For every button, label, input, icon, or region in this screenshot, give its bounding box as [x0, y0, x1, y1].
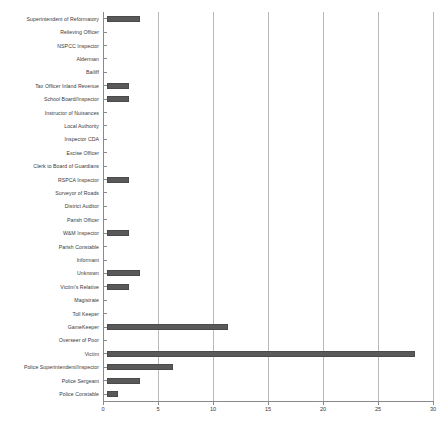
category-label: Superintendent of Reformatory: [0, 16, 103, 22]
bar[interactable]: [107, 391, 118, 397]
x-axis-tick: [103, 401, 104, 405]
bar-cell: [107, 52, 443, 65]
category-label: Informant: [0, 257, 103, 263]
bar-cell: [107, 240, 443, 253]
category-label: Tax Officer Inland Revenue: [0, 83, 103, 89]
category-label: Alderman: [0, 56, 103, 62]
bar[interactable]: [107, 324, 228, 330]
chart-row: Alderman: [0, 52, 443, 65]
bar-cell: [107, 213, 443, 226]
x-axis-tick-label: 30: [430, 406, 436, 413]
category-label: Unknown: [0, 270, 103, 276]
chart-row: Police Sergeant: [0, 374, 443, 387]
x-axis-tick: [378, 401, 379, 405]
category-label: Overseer of Poor: [0, 337, 103, 343]
category-label: Police Sergeant: [0, 378, 103, 384]
bar-cell: [107, 66, 443, 79]
category-label: Victim: [0, 351, 103, 357]
category-label: RSPCA Inspector: [0, 177, 103, 183]
chart-row: W&M Inspector: [0, 227, 443, 240]
bar[interactable]: [107, 270, 140, 276]
bar-cell: [107, 200, 443, 213]
x-axis-tick: [433, 401, 434, 405]
chart-row: Clerk to Board of Guardians: [0, 159, 443, 172]
bar-cell: [107, 307, 443, 320]
bar-cell: [107, 25, 443, 38]
bar[interactable]: [107, 230, 129, 236]
bar-chart: Superintendent of ReformatoryRelieving O…: [0, 0, 443, 431]
bar[interactable]: [107, 284, 129, 290]
chart-row: Instructor of Nuisances: [0, 106, 443, 119]
bar-cell: [107, 280, 443, 293]
chart-row: GameKeeper: [0, 320, 443, 333]
category-label: Inspector CDA: [0, 136, 103, 142]
x-axis-tick-label: 25: [375, 406, 381, 413]
category-label: Toll Keeper: [0, 311, 103, 317]
bar-cell: [107, 227, 443, 240]
chart-row: Surveyor of Roads: [0, 186, 443, 199]
bar-cell: [107, 79, 443, 92]
bar-cell: [107, 133, 443, 146]
bar-cell: [107, 253, 443, 266]
x-axis-tick-label: 0: [101, 406, 104, 413]
chart-row: Overseer of Poor: [0, 334, 443, 347]
category-label: W&M Inspector: [0, 230, 103, 236]
category-label: Surveyor of Roads: [0, 190, 103, 196]
x-axis-tick-label: 5: [156, 406, 159, 413]
category-label: Parish Officer: [0, 217, 103, 223]
bar[interactable]: [107, 378, 140, 384]
bar-cell: [107, 119, 443, 132]
bar-cell: [107, 12, 443, 25]
chart-row: District Auditor: [0, 200, 443, 213]
x-axis-tick-label: 10: [210, 406, 216, 413]
x-axis-tick: [268, 401, 269, 405]
bar-cell: [107, 320, 443, 333]
chart-row: Tax Officer Inland Revenue: [0, 79, 443, 92]
category-label: NSPCC Inspector: [0, 43, 103, 49]
category-label: Local Authority: [0, 123, 103, 129]
bar-cell: [107, 106, 443, 119]
chart-row: NSPCC Inspector: [0, 39, 443, 52]
bar[interactable]: [107, 83, 129, 89]
bar-cell: [107, 39, 443, 52]
chart-row: Unknown: [0, 267, 443, 280]
chart-row: Bailiff: [0, 66, 443, 79]
bar[interactable]: [107, 177, 129, 183]
chart-row: Relieving Officer: [0, 25, 443, 38]
chart-row: Victim's Relative: [0, 280, 443, 293]
x-axis-ticks: 051015202530: [103, 401, 433, 417]
chart-row: Toll Keeper: [0, 307, 443, 320]
chart-row: Superintendent of Reformatory: [0, 12, 443, 25]
chart-row: Victim: [0, 347, 443, 360]
bar-cell: [107, 159, 443, 172]
category-label: Police Superintendent/Inspector: [0, 364, 103, 370]
category-label: Relieving Officer: [0, 29, 103, 35]
chart-row: Informant: [0, 253, 443, 266]
chart-row: Magistrate: [0, 294, 443, 307]
bar-cell: [107, 347, 443, 360]
category-label: Parish Constable: [0, 244, 103, 250]
bar-cell: [107, 387, 443, 400]
category-label: School Board/Inspector: [0, 96, 103, 102]
x-axis-tick: [213, 401, 214, 405]
bar[interactable]: [107, 96, 129, 102]
category-label: Magistrate: [0, 297, 103, 303]
bar-cell: [107, 146, 443, 159]
bar[interactable]: [107, 16, 140, 22]
category-label: Clerk to Board of Guardians: [0, 163, 103, 169]
bar[interactable]: [107, 351, 415, 357]
chart-row: Inspector CDA: [0, 133, 443, 146]
bar[interactable]: [107, 364, 173, 370]
category-label: Victim's Relative: [0, 284, 103, 290]
bar-cell: [107, 294, 443, 307]
bar-cell: [107, 92, 443, 105]
bar-cell: [107, 334, 443, 347]
x-axis-tick-label: 20: [320, 406, 326, 413]
x-axis-tick: [323, 401, 324, 405]
bar-cell: [107, 186, 443, 199]
bar-cell: [107, 267, 443, 280]
bar-cell: [107, 173, 443, 186]
category-label: Bailiff: [0, 69, 103, 75]
chart-row: Police Superintendent/Inspector: [0, 361, 443, 374]
chart-row: Local Authority: [0, 119, 443, 132]
